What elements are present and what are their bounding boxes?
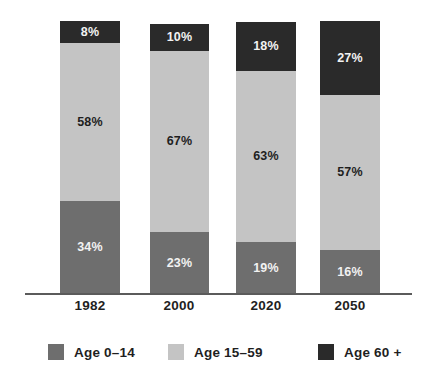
x-axis-line bbox=[25, 293, 412, 295]
bar-value-label: 63% bbox=[253, 150, 279, 163]
bar-segment-age-15-59-2050[interactable]: 57% bbox=[320, 95, 380, 250]
bar-segment-age-15-59-1982[interactable]: 58% bbox=[60, 43, 120, 201]
bar-group-2050[interactable]: 27% 57% 16% bbox=[320, 21, 380, 294]
legend-swatch-icon bbox=[318, 344, 334, 360]
bar-group-2020[interactable]: 18% 63% 19% bbox=[236, 22, 296, 294]
bar-value-label: 34% bbox=[77, 241, 103, 254]
bar-segment-age-15-59-2020[interactable]: 63% bbox=[236, 71, 296, 242]
bar-value-label: 18% bbox=[253, 40, 279, 53]
bar-value-label: 8% bbox=[81, 26, 99, 39]
legend-item-label: Age 60 + bbox=[344, 345, 402, 360]
chart-legend: Age 0–14 Age 15–59 Age 60 + bbox=[0, 341, 433, 371]
legend-item-age-0-14[interactable]: Age 0–14 bbox=[48, 341, 135, 363]
legend-item-age-15-59[interactable]: Age 15–59 bbox=[168, 341, 263, 363]
legend-item-label: Age 0–14 bbox=[74, 345, 135, 360]
bar-value-label: 23% bbox=[167, 257, 193, 270]
bar-value-label: 16% bbox=[337, 266, 363, 279]
bar-value-label: 57% bbox=[337, 166, 363, 179]
bar-group-2000[interactable]: 10% 67% 23% bbox=[150, 24, 209, 294]
bar-value-label: 27% bbox=[337, 52, 363, 65]
x-tick-label-2000: 2000 bbox=[144, 298, 214, 313]
legend-swatch-icon bbox=[48, 344, 64, 360]
bar-segment-age-0-14-2000[interactable]: 23% bbox=[150, 232, 209, 294]
bar-segment-age-0-14-2020[interactable]: 19% bbox=[236, 242, 296, 294]
bar-segment-age-60-plus-2050[interactable]: 27% bbox=[320, 21, 380, 95]
plot-area: 8% 58% 34% 10% 67% 23% 18% bbox=[0, 0, 433, 296]
bar-value-label: 19% bbox=[253, 262, 279, 275]
x-axis-tick-labels: 1982 2000 2020 2050 bbox=[0, 298, 433, 320]
bar-segment-age-0-14-2050[interactable]: 16% bbox=[320, 250, 380, 294]
bar-segment-age-60-plus-2020[interactable]: 18% bbox=[236, 22, 296, 71]
x-tick-label-2050: 2050 bbox=[315, 298, 385, 313]
x-tick-label-2020: 2020 bbox=[231, 298, 301, 313]
x-tick-label-1982: 1982 bbox=[55, 298, 125, 313]
bar-segment-age-0-14-1982[interactable]: 34% bbox=[60, 201, 120, 294]
bar-value-label: 67% bbox=[167, 135, 193, 148]
bar-value-label: 58% bbox=[77, 116, 103, 129]
legend-item-label: Age 15–59 bbox=[194, 345, 263, 360]
bar-segment-age-60-plus-2000[interactable]: 10% bbox=[150, 24, 209, 51]
stacked-bar-chart: 8% 58% 34% 10% 67% 23% 18% bbox=[0, 0, 433, 387]
bar-group-1982[interactable]: 8% 58% 34% bbox=[60, 21, 120, 294]
bar-segment-age-60-plus-1982[interactable]: 8% bbox=[60, 21, 120, 43]
legend-item-age-60-plus[interactable]: Age 60 + bbox=[318, 341, 402, 363]
legend-swatch-icon bbox=[168, 344, 184, 360]
bar-value-label: 10% bbox=[167, 31, 193, 44]
bar-segment-age-15-59-2000[interactable]: 67% bbox=[150, 51, 209, 232]
